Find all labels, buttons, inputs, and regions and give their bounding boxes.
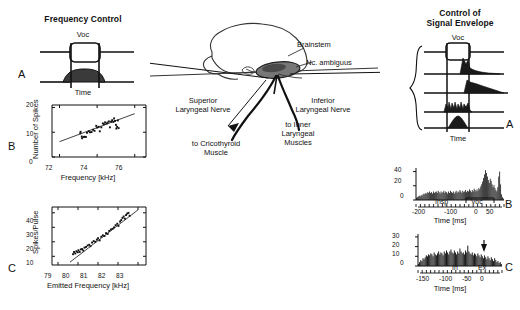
plot-c-panel-letter: C	[8, 258, 16, 276]
plot-b-panel-letter: B	[8, 136, 15, 154]
right-voc-label: Voc	[438, 33, 478, 42]
plot-b-xlabel: Frequency [kHz]	[33, 173, 143, 182]
to-inner-laryngeal-line1: to Inner	[268, 120, 328, 129]
histogram-b-ytick-40: 40	[394, 166, 401, 173]
left-panel-a-label: A	[18, 68, 25, 80]
histogram-c-ytick-30: 30	[392, 232, 399, 239]
left-voc-label: Voc	[63, 30, 103, 39]
plot-b-ytick-20: 20	[26, 101, 33, 108]
left-panel-letter-a: A	[18, 64, 25, 82]
frequency-control-title: Frequency Control	[28, 14, 138, 24]
nucleus-ambiguus-label: Nc. ambiguus	[306, 58, 352, 67]
signal-envelope-title-line1: Control of	[408, 8, 512, 18]
frequency-control-trace-schematic	[38, 40, 138, 92]
plot-c-ytick-10: 10	[26, 259, 33, 266]
signal-envelope-title: Control of Signal Envelope	[408, 8, 512, 28]
histogram-b-xlabel: Time [ms]	[410, 216, 490, 225]
right-time-label: Time	[438, 134, 478, 143]
histogram-b-xtick-neg200: -200	[412, 208, 425, 215]
plot-b-ytick-10: 10	[26, 130, 33, 137]
plot-b-xtick-72: 72	[45, 164, 52, 171]
histogram-c-xtick-neg100: -100	[439, 275, 452, 282]
to-cricothyroid-line2: Muscle	[178, 148, 254, 157]
plot-c-xtick-82: 82	[98, 272, 105, 279]
histogram-b-panel-letter: B	[505, 198, 512, 210]
histogram-b-xtick-50: 50	[486, 208, 493, 215]
plot-b-xtick-74: 74	[80, 164, 87, 171]
plot-b-xtick-76: 76	[115, 164, 122, 171]
event-marker-arrow-glyph	[481, 240, 487, 252]
histogram-c-ytick-20: 20	[392, 241, 399, 248]
histogram-b-voc-label: Voc	[471, 198, 483, 205]
histogram-b-ytick-20: 20	[394, 177, 401, 184]
left-time-label: Time	[63, 88, 103, 97]
plot-c-xtick-79: 79	[44, 272, 51, 279]
histogram-c-plot	[396, 232, 508, 278]
plot-c-letter-label: C	[8, 262, 16, 274]
histogram-b-xtick-neg100: -100	[444, 208, 457, 215]
plot-c-ytick-20: 20	[26, 245, 33, 252]
plot-c-xtick-83: 83	[116, 272, 123, 279]
plot-b-letter-label: B	[8, 140, 15, 152]
histogram-b-ytick-0: 0	[400, 192, 404, 199]
histogram-c-xtick-neg50: -50	[462, 275, 472, 282]
inferior-laryngeal-nerve-label: Inferior Laryngeal Nerve	[282, 96, 364, 114]
superior-laryngeal-nerve-line1: Superior	[162, 96, 244, 105]
histogram-c-xtick-0: 0	[480, 275, 484, 282]
inferior-laryngeal-nerve-line2: Laryngeal Nerve	[282, 105, 364, 114]
histogram-c-xlabel: Time [ms]	[410, 284, 490, 293]
signal-envelope-title-line2: Signal Envelope	[408, 18, 512, 28]
plot-c-xtick-81: 81	[80, 272, 87, 279]
plot-c-ytick-40: 40	[26, 217, 33, 224]
histogram-c-in-label: In	[452, 264, 458, 271]
histogram-c-xtick-neg150: -150	[416, 275, 429, 282]
to-inner-laryngeal-muscles-label: to Inner Laryngeal Muscles	[268, 120, 328, 147]
plot-b-scatter	[34, 101, 150, 163]
histogram-c-ytick-0: 0	[400, 259, 404, 266]
plot-c-ytick-30: 30	[26, 231, 33, 238]
figure-root: Frequency Control A Voc Time B Number of…	[0, 0, 520, 310]
superior-laryngeal-nerve-line2: Laryngeal Nerve	[162, 105, 244, 114]
inferior-laryngeal-nerve-line1: Inferior	[282, 96, 364, 105]
to-cricothyroid-muscle-label: to Cricothyroid Muscle	[178, 139, 254, 157]
plot-c-xtick-80: 80	[62, 272, 69, 279]
histogram-c-ex-label: Ex	[478, 264, 486, 271]
superior-laryngeal-nerve-label: Superior Laryngeal Nerve	[162, 96, 244, 114]
plot-c-xlabel: Emitted Frequency [kHz]	[23, 281, 153, 290]
plot-c-scatter	[34, 203, 150, 271]
right-panel-letter-a: A	[506, 118, 513, 130]
signal-envelope-trace-stack	[408, 42, 512, 134]
histogram-c-ytick-10: 10	[392, 250, 399, 257]
histogram-c-panel-letter: C	[505, 261, 513, 273]
to-inner-laryngeal-line3: Muscles	[268, 138, 328, 147]
histogram-b-insp-label: Insp	[435, 198, 448, 205]
to-inner-laryngeal-line2: Laryngeal	[268, 129, 328, 138]
histogram-b-xtick-0: 0	[474, 208, 478, 215]
brainstem-label: Brainstem	[297, 40, 331, 49]
plot-b-ytick-0: 0	[29, 158, 33, 165]
to-cricothyroid-line1: to Cricothyroid	[178, 139, 254, 148]
